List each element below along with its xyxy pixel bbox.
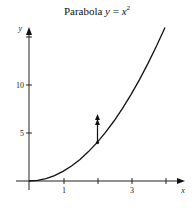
- y-tick-label-5: 5: [20, 129, 24, 138]
- x-tick-label-1: 1: [62, 186, 66, 195]
- parabola-curve: [29, 27, 165, 181]
- x-axis-arrow-icon: [177, 178, 185, 184]
- y-axis-arrow-icon: [26, 27, 32, 35]
- plot-area: 1 3 x 5 10 y: [0, 0, 194, 208]
- y-axis-label: y: [17, 24, 22, 33]
- x-axis-label: x: [180, 186, 185, 195]
- y-tick-label-10: 10: [16, 81, 24, 90]
- x-tick-label-3: 3: [130, 186, 134, 195]
